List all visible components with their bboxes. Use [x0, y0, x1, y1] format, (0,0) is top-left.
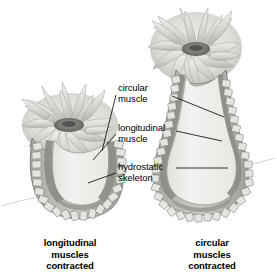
caption-left-anemone: longitudinal muscles contracted — [10, 237, 130, 272]
right-anemone — [148, 8, 254, 222]
right-anemone-tentacle-crown — [148, 8, 242, 92]
right-anemone-column — [151, 70, 254, 222]
right-anemone-mouth — [189, 45, 203, 51]
label-longitudinal-muscle: longitudinal muscle — [118, 122, 165, 144]
left-anemone-mouth — [62, 121, 76, 127]
label-circular-muscle: circular muscle — [118, 82, 148, 104]
anemone-diagram: circular muscle longitudinal muscle hydr… — [0, 0, 277, 280]
label-hydrostatic-skeleton: hydrostatic skeleton — [118, 161, 163, 183]
left-anemone — [22, 82, 126, 221]
caption-right-anemone: circular muscles contracted — [152, 237, 272, 272]
